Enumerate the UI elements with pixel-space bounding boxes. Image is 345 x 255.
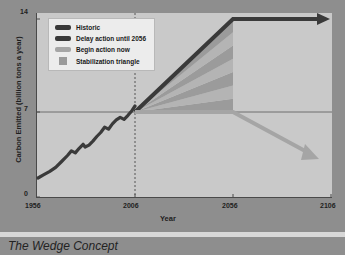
legend-label-begin-action: Begin action now — [76, 46, 130, 53]
legend-swatch-stabilization-triangle — [59, 57, 67, 65]
figure-caption: The Wedge Concept — [8, 239, 118, 253]
caption-divider — [0, 232, 345, 237]
legend-item-delay-action: Delay action until 2056 — [55, 35, 146, 42]
y-tick-7: 7 — [24, 105, 28, 112]
delay-action-arrowhead — [317, 13, 330, 25]
legend-label-stabilization-triangle: Stabilization triangle — [76, 58, 140, 65]
legend-item-historic: Historic — [55, 24, 146, 31]
legend-item-stabilization-triangle: Stabilization triangle — [55, 57, 146, 65]
series-begin-action — [135, 112, 307, 152]
y-tick-14: 14 — [20, 8, 28, 15]
x-tick-2106: 2106 — [320, 202, 336, 209]
legend-swatch-delay-action — [55, 36, 71, 41]
legend-swatch-historic — [55, 25, 71, 30]
x-axis-label: Year — [160, 214, 176, 223]
legend-swatch-begin-action — [55, 47, 71, 52]
x-tick-2006: 2006 — [123, 202, 139, 209]
begin-action-arrowhead — [301, 144, 319, 160]
legend-label-historic: Historic — [76, 24, 100, 31]
chart-figure: 14 7 0 1956 2006 2056 2106 Year Carbon E… — [0, 0, 345, 232]
legend-label-delay-action: Delay action until 2056 — [76, 35, 146, 42]
x-tick-2056: 2056 — [222, 202, 238, 209]
y-tick-0: 0 — [24, 190, 28, 197]
series-historic — [38, 106, 135, 178]
y-axis-label: Carbon Emitted (billion tons a year) — [14, 20, 23, 180]
legend-item-begin-action: Begin action now — [55, 46, 146, 53]
chart-legend: Historic Delay action until 2056 Begin a… — [48, 18, 155, 71]
x-tick-1956: 1956 — [25, 202, 41, 209]
